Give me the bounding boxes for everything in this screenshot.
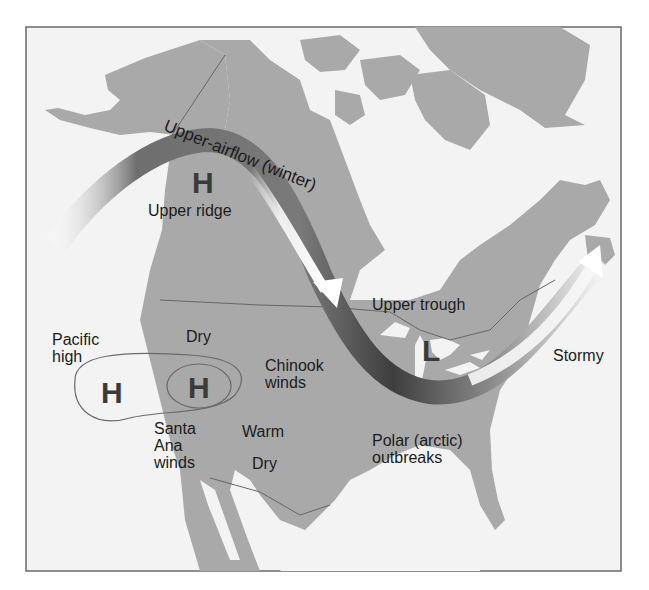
label-santa-ana-line3: winds (154, 454, 196, 471)
label-chinook-line2: winds (265, 374, 324, 391)
label-polar-line2: outbreaks (372, 449, 463, 466)
label-warm: Warm (242, 423, 284, 440)
symbol-upper-ridge-high: H (192, 168, 214, 198)
label-stormy: Stormy (553, 347, 604, 364)
label-dry-north: Dry (186, 328, 211, 345)
symbol-great-basin-high: H (188, 373, 210, 403)
label-pacific-high-line2: high (52, 348, 99, 365)
label-dry-south: Dry (252, 455, 277, 472)
label-upper-trough: Upper trough (372, 296, 465, 313)
symbol-trough-low: L (422, 336, 440, 366)
label-polar-line1: Polar (arctic) (372, 432, 463, 449)
label-upper-ridge: Upper ridge (148, 202, 232, 219)
north-america-map (0, 0, 649, 590)
symbol-pacific-high: H (101, 378, 123, 408)
label-polar-outbreaks: Polar (arctic) outbreaks (372, 432, 463, 466)
label-pacific-high: Pacific high (52, 331, 99, 365)
label-chinook-line1: Chinook (265, 357, 324, 374)
label-santa-ana-line2: Ana (154, 437, 196, 454)
label-chinook-winds: Chinook winds (265, 357, 324, 391)
label-santa-ana-line1: Santa (154, 420, 196, 437)
label-santa-ana-winds: Santa Ana winds (154, 420, 196, 471)
label-pacific-high-line1: Pacific (52, 331, 99, 348)
